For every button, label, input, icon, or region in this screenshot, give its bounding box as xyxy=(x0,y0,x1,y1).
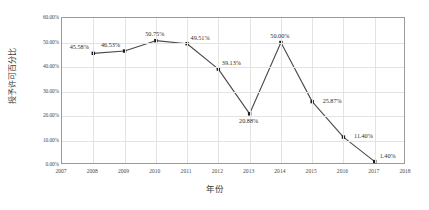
data-point-label: 46.53% xyxy=(89,41,133,48)
data-point-label: 49.51% xyxy=(178,34,222,41)
y-axis-title: 授予许可百分比 xyxy=(8,36,17,116)
x-tick-label: 2018 xyxy=(385,168,425,175)
data-point-label: 25.87% xyxy=(310,97,354,104)
line-chart: 0.00%10.00%20.00%30.00%40.00%50.00%60.00… xyxy=(0,0,429,210)
data-point-label: 39.13% xyxy=(209,59,253,66)
x-axis-tick-labels: 2007200820092010201120122013201420152016… xyxy=(0,168,429,178)
x-axis-title: 年份 xyxy=(0,184,429,194)
data-point-label: 11.40% xyxy=(341,132,385,139)
data-point-label: 50.00% xyxy=(258,32,302,39)
y-tick-label: 0.00% xyxy=(1,161,59,167)
y-tick-label: 10.00% xyxy=(1,137,59,143)
data-point-label: 50.75% xyxy=(133,30,177,37)
data-point-label: 1.40% xyxy=(366,152,410,159)
data-labels: 45.58%46.53%50.75%49.51%39.13%20.88%50.0… xyxy=(61,17,405,164)
y-tick-label: 60.00% xyxy=(1,14,59,20)
data-point-label: 20.88% xyxy=(227,117,271,124)
